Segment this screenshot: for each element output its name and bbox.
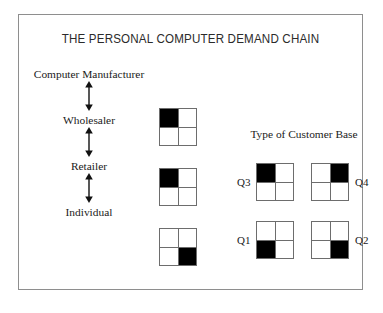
quadrant-cell-top-right [179, 169, 197, 187]
quadrant-grid [256, 163, 294, 201]
quadrant-cell-top-left [160, 109, 178, 127]
legend-quadrant-q2: Q2 [311, 221, 374, 259]
wholesaler-quadrant-box [159, 108, 197, 146]
quadrant-grid [311, 221, 349, 259]
figure-frame: THE PERSONAL COMPUTER DEMAND CHAIN Compu… [18, 14, 363, 290]
legend-title: Type of Customer Base [224, 128, 383, 140]
legend-label-q3: Q3 [231, 176, 256, 188]
quadrant-cell-bottom-right [179, 128, 197, 146]
chain-label-wholesaler: Wholesaler [19, 113, 159, 127]
legend-quadrant-q1: Q1 [231, 221, 294, 259]
quadrant-grid [159, 228, 197, 266]
quadrant-cell-top-left [160, 229, 178, 247]
quadrant-cell-bottom-right [179, 248, 197, 266]
quadrant-cell-top-right [179, 229, 197, 247]
quadrant-cell-top-right [331, 222, 349, 240]
quadrant-cell-bottom-right [276, 183, 294, 201]
double-arrow-icon [19, 81, 159, 111]
chain-arrow-2 [19, 127, 159, 159]
quadrant-grid [256, 221, 294, 259]
quadrant-cell-top-left [312, 164, 330, 182]
quadrant-cell-bottom-left [312, 183, 330, 201]
quadrant-cell-top-left [160, 169, 178, 187]
double-arrow-icon [19, 173, 159, 203]
figure-title: THE PERSONAL COMPUTER DEMAND CHAIN [40, 31, 342, 46]
quadrant-cell-bottom-left [312, 241, 330, 259]
demand-chain-column: Computer Manufacturer Wholesaler Retai [19, 67, 159, 219]
legend-label-q1: Q1 [231, 234, 256, 246]
chain-arrow-1 [19, 81, 159, 113]
chain-label-individual: Individual [19, 205, 159, 219]
quadrant-cell-top-left [312, 222, 330, 240]
quadrant-cell-bottom-right [276, 241, 294, 259]
legend-label-q2: Q2 [349, 234, 374, 246]
quadrant-cell-bottom-right [331, 241, 349, 259]
legend-label-q4: Q4 [349, 176, 374, 188]
quadrant-cell-top-left [257, 222, 275, 240]
quadrant-cell-top-right [331, 164, 349, 182]
quadrant-cell-bottom-left [257, 241, 275, 259]
quadrant-cell-bottom-left [160, 128, 178, 146]
quadrant-cell-bottom-right [179, 188, 197, 206]
quadrant-grid [311, 163, 349, 201]
retailer-quadrant-box [159, 168, 197, 206]
quadrant-cell-bottom-left [257, 183, 275, 201]
quadrant-cell-top-right [276, 164, 294, 182]
quadrant-cell-top-right [276, 222, 294, 240]
individual-quadrant-box [159, 228, 197, 266]
quadrant-cell-bottom-left [160, 248, 178, 266]
legend-quadrant-q4: Q4 [311, 163, 374, 201]
quadrant-cell-bottom-right [331, 183, 349, 201]
quadrant-cell-bottom-left [160, 188, 178, 206]
quadrant-cell-top-left [257, 164, 275, 182]
chain-label-retailer: Retailer [19, 159, 159, 173]
quadrant-grid [159, 168, 197, 206]
chain-arrow-3 [19, 173, 159, 205]
legend-quadrant-q3: Q3 [231, 163, 294, 201]
quadrant-grid [159, 108, 197, 146]
quadrant-cell-top-right [179, 109, 197, 127]
chain-label-computer-manufacturer: Computer Manufacturer [19, 67, 159, 81]
double-arrow-icon [19, 127, 159, 157]
